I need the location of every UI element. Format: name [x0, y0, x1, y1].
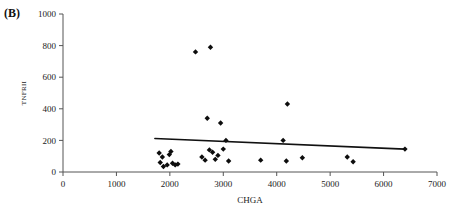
data-point [280, 138, 285, 143]
data-point [213, 157, 218, 162]
data-point [193, 49, 198, 54]
x-tick-label: 1000 [107, 179, 126, 189]
y-tick-label: 600 [43, 72, 57, 82]
x-tick-label: 5000 [321, 179, 340, 189]
data-point [215, 153, 220, 158]
y-tick-label: 400 [43, 104, 57, 114]
scatter-plot-figure: (B) 02004006008001000 010002000300040005… [0, 0, 452, 215]
y-tick-label: 1000 [38, 9, 57, 19]
data-point [205, 116, 210, 121]
y-axis-title: TNFRII [20, 80, 28, 105]
data-point [160, 154, 165, 159]
data-point [285, 101, 290, 106]
data-point [221, 146, 226, 151]
y-tick-label: 200 [43, 136, 57, 146]
data-point [226, 158, 231, 163]
data-point [208, 44, 213, 49]
data-point [300, 155, 305, 160]
y-tick-label: 800 [43, 41, 57, 51]
x-tick-label: 0 [61, 179, 66, 189]
data-points [156, 44, 407, 169]
y-axis-ticks: 02004006008001000 [38, 9, 63, 177]
x-tick-label: 2000 [161, 179, 180, 189]
x-tick-label: 6000 [375, 179, 394, 189]
y-tick-label: 0 [52, 167, 57, 177]
data-point [350, 159, 355, 164]
x-tick-label: 7000 [428, 179, 447, 189]
data-point [345, 154, 350, 159]
data-point [156, 150, 161, 155]
data-point [158, 160, 163, 165]
data-point [284, 158, 289, 163]
plot-canvas: 02004006008001000 0100020003000400050006… [0, 0, 452, 215]
x-axis-title: CHGA [237, 195, 263, 205]
x-tick-label: 4000 [268, 179, 287, 189]
data-point [258, 157, 263, 162]
data-point [218, 120, 223, 125]
trend-line [155, 139, 405, 150]
x-tick-label: 3000 [214, 179, 233, 189]
x-axis-ticks: 01000200030004000500060007000 [61, 172, 447, 189]
